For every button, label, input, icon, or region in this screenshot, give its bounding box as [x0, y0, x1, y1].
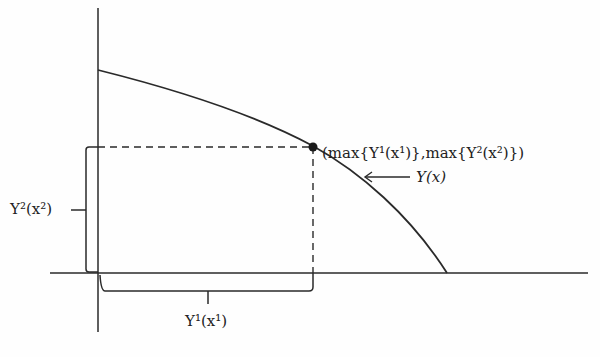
frontier-curve: [98, 70, 447, 273]
x-brace: [100, 273, 313, 291]
x-brace-label-text: Y¹(x¹): [185, 312, 227, 330]
point-label: (max{Y¹(x¹)},max{Y²(x²)}): [322, 146, 524, 161]
y-brace-label: Y²(x²): [10, 202, 52, 217]
max-point: [309, 143, 318, 152]
diagram-canvas: (max{Y¹(x¹)},max{Y²(x²)}) Y(x) Y²(x²) Y¹…: [0, 0, 600, 357]
point-label-text: (max{Y¹(x¹)},max{Y²(x²)}): [322, 144, 524, 162]
y-brace: [86, 147, 98, 272]
curve-label-text: Y(x): [416, 168, 446, 186]
x-brace-label: Y¹(x¹): [185, 314, 227, 329]
curve-label: Y(x): [416, 170, 446, 185]
y-brace-label-text: Y²(x²): [10, 200, 52, 218]
diagram-svg: [0, 0, 600, 357]
